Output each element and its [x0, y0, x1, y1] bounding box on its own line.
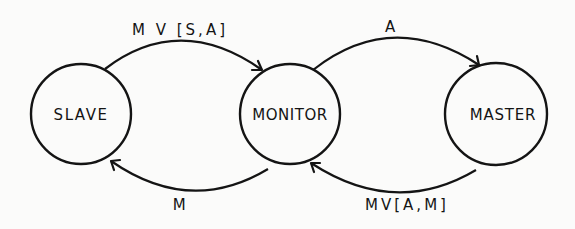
edge-label: M V [S,A] [132, 21, 228, 39]
edge-path [111, 161, 268, 191]
node-master: MASTER [445, 63, 547, 165]
edge-label: A [385, 18, 397, 36]
edge-label: MV[A,M] [365, 196, 449, 214]
edge-label: M [173, 196, 187, 214]
edge-master-to-monitor: MV[A,M] [311, 163, 476, 214]
edge-path [311, 163, 476, 192]
edge-monitor-to-slave: M [111, 160, 268, 214]
master-label: MASTER [470, 106, 537, 124]
monitor-label: MONITOR [252, 106, 327, 124]
slave-label: SLAVE [54, 106, 109, 124]
edge-path [313, 38, 479, 70]
edge-monitor-to-master: A [313, 18, 479, 70]
node-monitor: MONITOR [240, 64, 340, 164]
edge-slave-to-monitor: M V [S,A] [105, 21, 262, 70]
edge-path [105, 41, 262, 70]
node-slave: SLAVE [31, 64, 131, 164]
state-diagram: SLAVE MONITOR MASTER M V [S,A] A M MV[A,… [0, 0, 575, 229]
